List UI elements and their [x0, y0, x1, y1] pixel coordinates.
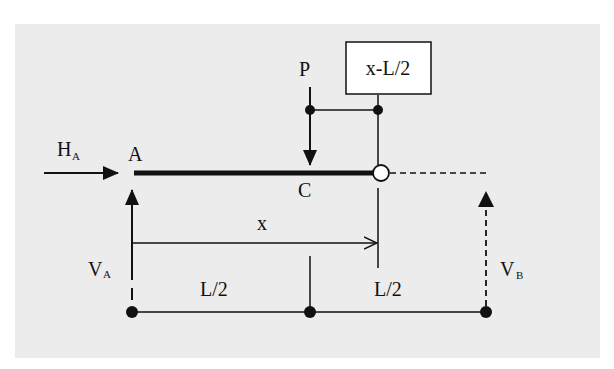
label-vb: V	[500, 258, 515, 280]
dot-icon	[126, 306, 138, 318]
label-a: A	[128, 143, 143, 165]
label-ha: H	[57, 138, 71, 160]
label-ha-sub: A	[72, 150, 80, 162]
label-p: P	[299, 58, 310, 80]
arrowhead-icon	[478, 191, 494, 207]
beam-diagram: H A A P C x-L/2 V A x L/2 L/2 V B	[0, 0, 614, 369]
label-x: x	[257, 212, 267, 234]
label-half-left: L/2	[200, 278, 228, 300]
label-half-right: L/2	[374, 278, 402, 300]
dot-icon	[304, 306, 316, 318]
hinge-icon	[373, 165, 389, 181]
dot-icon	[480, 306, 492, 318]
label-vb-sub: B	[516, 269, 523, 281]
label-c: C	[298, 179, 311, 201]
dot-icon	[305, 105, 315, 115]
label-offset: x-L/2	[366, 57, 410, 79]
label-va: V	[88, 258, 103, 280]
label-va-sub: A	[103, 268, 111, 280]
